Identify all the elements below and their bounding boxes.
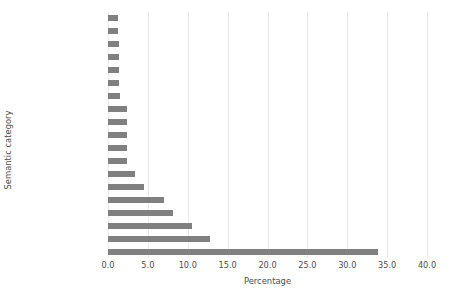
bar-row <box>108 193 427 206</box>
x-axis-tick-label: 40.0 <box>418 260 436 270</box>
bar <box>108 145 127 151</box>
x-axis-tick-label: 0.0 <box>101 260 114 270</box>
bar-row <box>108 103 427 116</box>
bar-row <box>108 12 427 25</box>
bar <box>108 15 118 21</box>
x-axis-tick-label: 20.0 <box>258 260 276 270</box>
bar-row <box>108 167 427 180</box>
bar-row <box>108 77 427 90</box>
x-axis-tick-label: 35.0 <box>378 260 396 270</box>
bar <box>108 132 127 138</box>
bar-row <box>108 116 427 129</box>
bar <box>108 28 118 34</box>
x-axis-tick-label: 10.0 <box>179 260 197 270</box>
bar <box>108 158 127 164</box>
x-axis-tick-label: 30.0 <box>338 260 356 270</box>
bar-row <box>108 180 427 193</box>
x-axis-tick-label: 5.0 <box>141 260 154 270</box>
bar <box>108 119 127 125</box>
bar-row <box>108 129 427 142</box>
bar <box>108 54 119 60</box>
bar <box>108 197 164 203</box>
bar-row <box>108 51 427 64</box>
bar <box>108 184 144 190</box>
bar-row <box>108 38 427 51</box>
bar-row <box>108 232 427 245</box>
bar <box>108 80 119 86</box>
bar-row <box>108 64 427 77</box>
bar <box>108 41 119 47</box>
bar <box>108 106 127 112</box>
bar-row <box>108 90 427 103</box>
gridline <box>427 12 428 258</box>
bar <box>108 67 119 73</box>
bar-row <box>108 206 427 219</box>
y-axis-label: Semantic category <box>0 0 18 299</box>
bar-row <box>108 141 427 154</box>
plot-area <box>108 12 427 258</box>
x-axis-tick-label: 15.0 <box>219 260 237 270</box>
y-axis-label-text: Semantic category <box>3 110 13 189</box>
bar <box>108 171 135 177</box>
x-axis-tick-label: 25.0 <box>298 260 316 270</box>
bar <box>108 236 210 242</box>
bar-row <box>108 154 427 167</box>
bar <box>108 223 192 229</box>
bar-row <box>108 245 427 258</box>
bar-row <box>108 219 427 232</box>
bar <box>108 93 120 99</box>
bar-chart-figure: Semantic category Percentage textstatere… <box>0 0 457 299</box>
bar <box>108 210 173 216</box>
bar-row <box>108 25 427 38</box>
x-axis-label: Percentage <box>108 276 427 286</box>
bar <box>108 249 378 255</box>
